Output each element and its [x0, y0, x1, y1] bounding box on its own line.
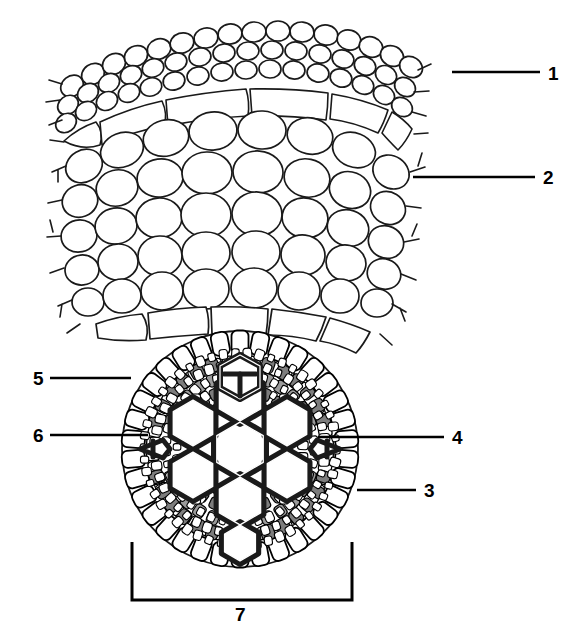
stele-region [121, 331, 359, 568]
label-7[interactable]: 7 [235, 605, 246, 624]
diagram-canvas: 1 2 3 4 5 6 7 [0, 0, 575, 640]
protoxylem-group [220, 355, 260, 399]
label-2[interactable]: 2 [543, 168, 554, 187]
label-1[interactable]: 1 [548, 64, 559, 83]
root-cross-section-figure [0, 0, 575, 640]
label-4[interactable]: 4 [452, 428, 463, 447]
label-5[interactable]: 5 [33, 369, 44, 388]
label-6[interactable]: 6 [33, 426, 44, 445]
label-3[interactable]: 3 [424, 481, 435, 500]
